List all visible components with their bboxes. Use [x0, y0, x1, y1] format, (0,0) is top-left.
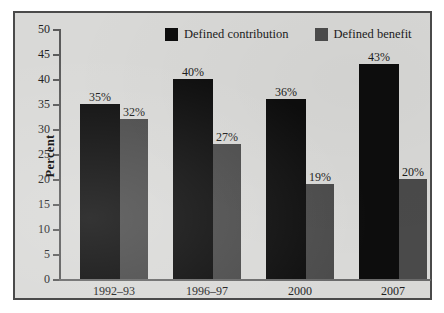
bar: 32%: [120, 119, 148, 279]
y-tick-label: 50: [38, 23, 50, 35]
bar: 36%: [266, 99, 306, 279]
legend-label-defined-benefit: Defined benefit: [334, 28, 412, 41]
chart-legend: Defined contribution Defined benefit: [165, 26, 412, 42]
y-tick-label: 30: [38, 123, 50, 135]
y-tick-label: 45: [38, 48, 50, 60]
y-tick-mark: [53, 279, 59, 281]
figure-root: Defined contribution Defined benefit Per…: [0, 0, 444, 313]
bar: 19%: [306, 184, 334, 279]
bar-value-label: 32%: [123, 106, 145, 118]
legend-swatch-defined-benefit: [315, 28, 328, 41]
legend-label-defined-contribution: Defined contribution: [184, 28, 289, 41]
x-axis-label: 1996–97: [186, 285, 228, 297]
bar-value-label: 27%: [216, 131, 238, 143]
y-axis-title: Percent: [43, 134, 58, 177]
y-tick-label: 15: [38, 198, 50, 210]
bar-group: 40%27%: [152, 29, 245, 279]
y-tick-label: 0: [44, 273, 50, 285]
bar: 40%: [173, 79, 213, 279]
bar-value-label: 40%: [182, 66, 204, 78]
y-tick-label: 10: [38, 223, 50, 235]
bar: 20%: [399, 179, 427, 279]
chart-panel: Defined contribution Defined benefit Per…: [13, 11, 432, 300]
plot-area: 05101520253035404550 35%32%40%27%36%19%4…: [59, 29, 431, 279]
bar-value-label: 35%: [89, 91, 111, 103]
x-axis-line: [59, 279, 431, 281]
x-axis-label: 2000: [288, 285, 312, 297]
legend-swatch-defined-contribution: [165, 28, 178, 41]
bar-group: 36%19%: [245, 29, 338, 279]
y-tick-label: 35: [38, 98, 50, 110]
y-tick-label: 40: [38, 73, 50, 85]
bar-group: 43%20%: [338, 29, 431, 279]
legend-entry-defined-contribution: Defined contribution: [165, 28, 289, 41]
legend-entry-defined-benefit: Defined benefit: [315, 28, 412, 41]
bar: 43%: [359, 64, 399, 279]
bar-value-label: 36%: [275, 86, 297, 98]
bar-group: 35%32%: [59, 29, 152, 279]
x-axis-label: 2007: [381, 285, 405, 297]
bar-value-label: 19%: [309, 171, 331, 183]
y-tick-label: 5: [44, 248, 50, 260]
bar-value-label: 20%: [402, 166, 424, 178]
bar-value-label: 43%: [368, 51, 390, 63]
bar: 27%: [213, 144, 241, 279]
bar: 35%: [80, 104, 120, 279]
x-axis-label: 1992–93: [93, 285, 135, 297]
